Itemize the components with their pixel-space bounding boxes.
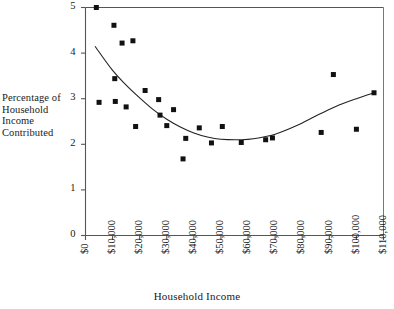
y-tick-label: 0 (60, 228, 76, 239)
x-tick-label: $10,000 (106, 219, 117, 253)
data-point-marker (94, 5, 99, 10)
data-point-marker (143, 88, 148, 93)
data-point-marker (124, 104, 129, 109)
x-tick-label: $40,000 (187, 219, 198, 253)
data-point-marker (97, 100, 102, 105)
y-tick-label: 2 (60, 137, 76, 148)
data-point-marker (239, 140, 244, 145)
data-point-marker (171, 107, 176, 112)
data-point-marker (120, 41, 125, 46)
data-point-marker (158, 113, 163, 118)
x-tick-label: $0 (79, 243, 90, 254)
data-point-marker (354, 127, 359, 132)
data-point-marker (164, 123, 169, 128)
data-point-marker (220, 124, 225, 129)
data-point-marker (209, 140, 214, 145)
y-tick-label: 4 (60, 46, 76, 57)
data-point-marker (270, 135, 275, 140)
data-point-marker (197, 125, 202, 130)
y-tick-label: 5 (60, 0, 76, 11)
x-tick-label: $90,000 (323, 219, 334, 253)
data-point-marker (156, 97, 161, 102)
data-point-marker (319, 130, 324, 135)
x-tick-label: $20,000 (133, 219, 144, 253)
x-tick-label: $70,000 (268, 219, 279, 253)
x-tick-label: $50,000 (214, 219, 225, 253)
x-tick-label: $100,000 (350, 214, 361, 253)
y-tick-label: 3 (60, 91, 76, 102)
data-point-marker (113, 99, 118, 104)
data-point-marker (181, 156, 186, 161)
x-tick-label: $30,000 (160, 219, 171, 253)
data-points-group (94, 5, 377, 161)
data-point-marker (183, 136, 188, 141)
data-point-marker (331, 72, 336, 77)
data-point-marker (111, 23, 116, 28)
data-point-marker (133, 124, 138, 129)
scatter-plot-figure: Percentage of Household Income Contribut… (0, 0, 394, 309)
data-point-marker (372, 90, 377, 95)
x-tick-label: $110,000 (377, 215, 388, 254)
data-point-marker (112, 76, 117, 81)
x-axis-title: Household Income (0, 290, 394, 302)
y-tick-label: 1 (60, 182, 76, 193)
data-point-marker (130, 38, 135, 43)
x-tick-label: $60,000 (241, 219, 252, 253)
x-tick-label: $80,000 (295, 219, 306, 253)
data-point-marker (263, 137, 268, 142)
